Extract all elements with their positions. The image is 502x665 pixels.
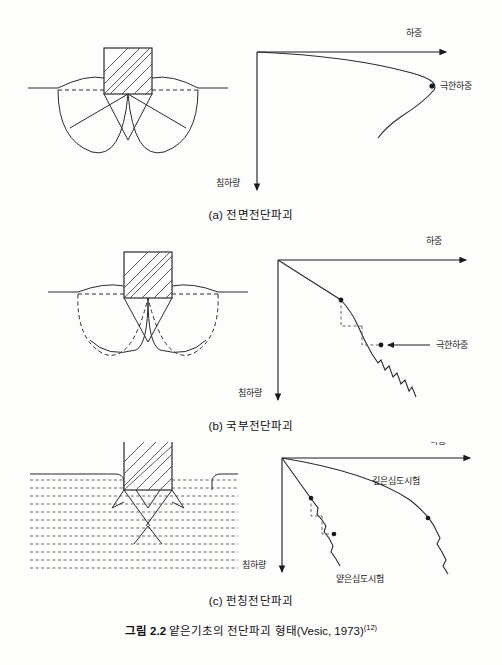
first-yield-marker-b bbox=[339, 298, 344, 303]
caption-panel-b: (b) 국부전단파괴 bbox=[0, 417, 502, 433]
ultimate-load-label-a: 극한하중 bbox=[440, 81, 472, 91]
panel-a-graphic: 하중 침하량 극한하중 bbox=[0, 0, 502, 206]
slip-surface-right bbox=[128, 90, 198, 153]
x-axis-label-c: 하중 bbox=[430, 442, 446, 446]
figure-title: 얕은기초의 전단파괴 형태(Vesic, 1973) bbox=[169, 625, 364, 637]
soil-section-c bbox=[30, 442, 238, 568]
wedge-edge-right-b bbox=[148, 298, 172, 342]
y-axis-label-a: 침하량 bbox=[216, 177, 240, 188]
heave-left-b bbox=[78, 285, 124, 292]
heave-right-b bbox=[172, 285, 218, 292]
curve-deep-depth-test bbox=[282, 458, 448, 574]
wedge-edge-left-b bbox=[124, 298, 148, 342]
deep-marker-c bbox=[426, 516, 431, 521]
panel-punching-shear-failure: 하중 침하량 깊은심도시험 얕은심도시험 bbox=[0, 442, 502, 617]
panel-b-graphic: 하중 침하량 극한하중 bbox=[0, 230, 502, 415]
curve-local-shear bbox=[278, 260, 416, 397]
figure-number: 그림 2.2 bbox=[125, 625, 166, 637]
figure-reference-superscript: (12) bbox=[364, 623, 377, 632]
panel-c-graphic: 하중 침하량 깊은심도시험 얕은심도시험 bbox=[0, 442, 502, 592]
deep-depth-test-label: 깊은심도시험 bbox=[372, 475, 420, 486]
figure-caption: 그림 2.2 얕은기초의 전단파괴 형태(Vesic, 1973)(12) bbox=[0, 622, 502, 638]
caption-panel-c: (c) 펀칭전단파괴 bbox=[0, 592, 502, 608]
ultimate-load-marker-a bbox=[429, 83, 434, 88]
slip-surface-right-b bbox=[148, 294, 218, 355]
slip-surface-left-b bbox=[78, 294, 148, 355]
ultimate-load-marker-b bbox=[379, 343, 384, 348]
heave-left bbox=[58, 77, 104, 88]
soil-section-a bbox=[28, 48, 228, 153]
load-settlement-graph-b: 하중 침하량 극한하중 bbox=[238, 236, 468, 400]
panel-general-shear-failure: 하중 침하량 극한하중 bbox=[0, 0, 502, 230]
shallow-marker-1-c bbox=[309, 496, 314, 501]
y-axis-label-b: 침하량 bbox=[238, 387, 262, 398]
x-axis-label-b: 하중 bbox=[426, 236, 442, 246]
soil-layers-c bbox=[30, 480, 238, 568]
soil-section-b bbox=[48, 252, 248, 355]
load-settlement-graph-c: 하중 침하량 깊은심도시험 얕은심도시험 bbox=[242, 442, 470, 584]
heave-right bbox=[152, 77, 198, 88]
y-axis-label-c: 침하량 bbox=[242, 559, 266, 570]
ultimate-load-label-b: 극한하중 bbox=[436, 340, 468, 350]
curve-general-shear bbox=[257, 52, 435, 138]
panel-local-shear-failure: 하중 침하량 극한하중 bbox=[0, 230, 502, 442]
shallow-marker-2-c bbox=[332, 532, 337, 537]
load-settlement-graph-a: 하중 침하량 극한하중 bbox=[216, 28, 472, 190]
shallow-depth-test-label: 얕은심도시험 bbox=[336, 574, 384, 584]
x-axis-label-a: 하중 bbox=[406, 28, 422, 38]
slip-surface-left bbox=[58, 90, 128, 153]
figure-page: 하중 침하량 극한하중 (a) 전면전단파괴 bbox=[0, 0, 502, 665]
caption-panel-a: (a) 전면전단파괴 bbox=[0, 206, 502, 222]
